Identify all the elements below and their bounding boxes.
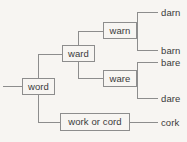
edge-word-to-ward bbox=[38, 54, 62, 55]
node-warn[interactable]: warn bbox=[103, 22, 137, 39]
leaf-darn[interactable]: darn bbox=[161, 8, 180, 18]
leaf-barn[interactable]: barn bbox=[161, 46, 180, 56]
edge-warn-to-barn bbox=[137, 50, 158, 51]
edge-word-to-work-or-cord bbox=[38, 122, 60, 123]
edge-ware-up-to-bare bbox=[137, 62, 138, 79]
node-ware-label: ware bbox=[110, 74, 131, 84]
leaf-cork-label: cork bbox=[161, 117, 179, 128]
node-word-label: word bbox=[28, 82, 49, 92]
edge-ward-to-warn bbox=[78, 31, 103, 32]
edge-ware-to-bare bbox=[137, 62, 158, 63]
leaf-barn-label: barn bbox=[161, 45, 180, 56]
edge-warn-to-darn bbox=[137, 12, 158, 13]
node-word[interactable]: word bbox=[22, 78, 55, 95]
leaf-dare[interactable]: dare bbox=[161, 94, 180, 104]
edge-ware-down-to-dare bbox=[137, 78, 138, 98]
word-tree-diagram: word ward warn ware work or cord darn ba… bbox=[0, 0, 187, 142]
edge-stub-into-word bbox=[3, 86, 22, 87]
node-ward-label: ward bbox=[68, 49, 89, 59]
leaf-dare-label: dare bbox=[161, 93, 180, 104]
leaf-bare-label: bare bbox=[161, 57, 180, 68]
leaf-bare[interactable]: bare bbox=[161, 58, 180, 68]
edge-ward-down-to-ware bbox=[78, 62, 79, 78]
node-work-or-cord-label: work or cord bbox=[68, 117, 121, 127]
node-ward[interactable]: ward bbox=[62, 45, 95, 62]
node-work-or-cord[interactable]: work or cord bbox=[60, 113, 130, 131]
leaf-darn-label: darn bbox=[161, 7, 180, 18]
edge-warn-up-to-darn bbox=[137, 12, 138, 31]
node-warn-label: warn bbox=[110, 26, 131, 36]
leaf-cork[interactable]: cork bbox=[161, 118, 179, 128]
edge-warn-down-to-barn bbox=[137, 31, 138, 50]
edge-ware-to-dare bbox=[137, 98, 158, 99]
node-ware[interactable]: ware bbox=[103, 70, 137, 87]
edge-work-or-cord-to-cork bbox=[130, 122, 158, 123]
edge-ward-to-ware bbox=[78, 78, 103, 79]
